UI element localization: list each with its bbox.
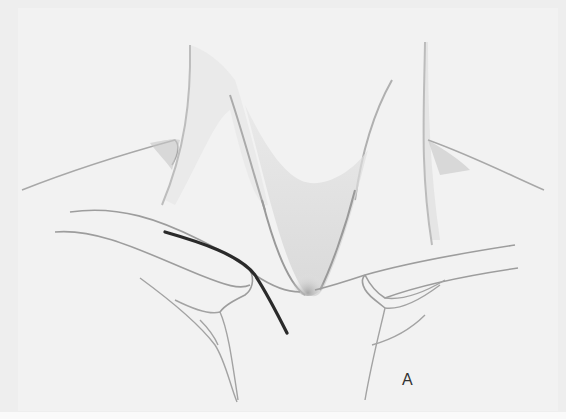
right-clavicle xyxy=(315,245,518,308)
figure-page: A xyxy=(0,0,566,419)
right-sternocleidomastoid xyxy=(355,42,440,245)
left-clavicle xyxy=(55,210,300,312)
scan-edge xyxy=(0,412,566,419)
anatomy-illustration xyxy=(0,0,566,419)
left-first-rib xyxy=(140,278,238,402)
panel-label: A xyxy=(402,371,413,389)
